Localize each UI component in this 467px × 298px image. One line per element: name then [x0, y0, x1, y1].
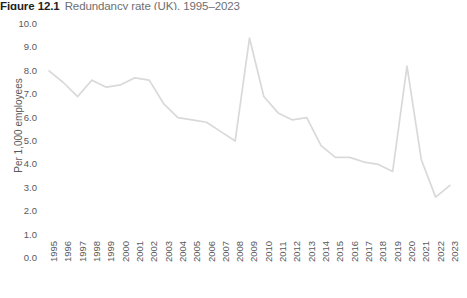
figure-title: Figure 12.1Redundancy rate (UK), 1995–20… — [0, 0, 467, 10]
x-axis-tick: 1997 — [78, 241, 88, 262]
y-axis-tick: 0.0 — [3, 253, 37, 263]
x-axis-tick: 2010 — [264, 241, 274, 262]
plot-area — [42, 24, 460, 258]
x-axis-tick: 2023 — [450, 241, 460, 262]
redundancy-rate-line — [49, 38, 450, 197]
x-axis-tick: 2016 — [350, 241, 360, 262]
x-axis-tick: 2003 — [164, 241, 174, 262]
y-axis-tick: 2.0 — [3, 206, 37, 216]
x-axis-tick: 2018 — [378, 241, 388, 262]
y-axis-tick: 10.0 — [3, 19, 37, 29]
x-axis-tick: 2005 — [192, 241, 202, 262]
x-axis-tick: 1999 — [106, 241, 116, 262]
line-chart-svg — [42, 24, 460, 258]
x-axis-tick: 2009 — [249, 241, 259, 262]
x-axis-tick: 2002 — [149, 241, 159, 262]
x-axis-tick: 2013 — [307, 241, 317, 262]
x-axis-tick: 2011 — [278, 242, 288, 262]
x-axis-tick: 2001 — [135, 241, 145, 262]
y-axis-tick: 4.0 — [3, 159, 37, 169]
x-axis-tick: 1998 — [92, 241, 102, 262]
y-axis-tick: 8.0 — [3, 66, 37, 76]
x-axis-tick: 2004 — [178, 241, 188, 262]
x-axis-tick: 2021 — [421, 241, 431, 262]
y-axis: Per 1,000 employees 10.09.08.07.06.05.04… — [0, 0, 42, 298]
figure-container: Figure 12.1Redundancy rate (UK), 1995–20… — [0, 0, 467, 298]
x-axis-tick: 2017 — [364, 241, 374, 262]
x-axis: 1995199619971998199920002001200220032004… — [42, 258, 460, 298]
x-axis-tick: 2022 — [436, 241, 446, 262]
y-axis-tick: 3.0 — [3, 183, 37, 193]
x-axis-tick: 2008 — [235, 241, 245, 262]
figure-caption: Redundancy rate (UK), 1995–2023 — [65, 0, 240, 10]
x-axis-tick: 2014 — [321, 241, 331, 262]
x-axis-tick: 2012 — [292, 241, 302, 262]
y-axis-tick: 5.0 — [3, 136, 37, 146]
x-axis-tick: 2015 — [335, 241, 345, 262]
x-axis-tick: 2019 — [393, 241, 403, 262]
x-axis-tick: 2000 — [121, 241, 131, 262]
y-axis-tick: 9.0 — [3, 42, 37, 52]
x-axis-tick: 2020 — [407, 241, 417, 262]
x-axis-tick: 1996 — [63, 241, 73, 262]
y-axis-tick: 7.0 — [3, 89, 37, 99]
y-axis-tick: 1.0 — [3, 230, 37, 240]
y-axis-tick: 6.0 — [3, 113, 37, 123]
x-axis-tick: 1995 — [49, 241, 59, 262]
x-axis-tick: 2006 — [207, 241, 217, 262]
x-axis-tick: 2007 — [221, 241, 231, 262]
